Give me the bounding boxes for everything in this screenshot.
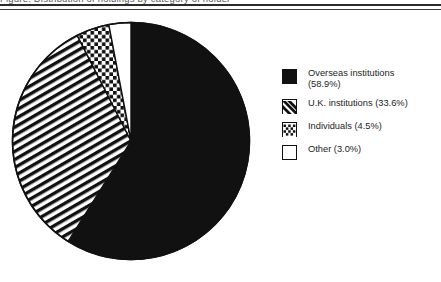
legend-swatch-other [282, 145, 297, 160]
legend-swatch-individuals [282, 122, 297, 137]
legend-label-uk-institutions: U.K. institutions (33.6%) [308, 98, 408, 109]
legend-item-overseas-institutions: Overseas institutions (58.9%) [282, 68, 441, 91]
legend-item-individuals: Individuals (4.5%) [282, 121, 441, 137]
pie-slices [13, 23, 250, 260]
legend-swatch-overseas-institutions [282, 69, 297, 84]
header-rule-second [0, 9, 441, 10]
dot-pattern-icon [283, 124, 296, 137]
chart-legend: Overseas institutions (58.9%) U.K. insti… [282, 68, 441, 160]
legend-item-uk-institutions: U.K. institutions (33.6%) [282, 98, 441, 114]
pie-chart [8, 16, 254, 266]
header-rule-top [0, 4, 441, 6]
legend-swatch-uk-institutions [282, 99, 297, 114]
legend-label-other: Other (3.0%) [308, 144, 361, 155]
legend-label-individuals: Individuals (4.5%) [308, 121, 382, 132]
legend-label-overseas-institutions: Overseas institutions (58.9%) [308, 68, 394, 91]
legend-item-other: Other (3.0%) [282, 144, 441, 160]
pie-chart-svg [8, 16, 254, 266]
diagonal-pattern-icon [283, 101, 296, 114]
